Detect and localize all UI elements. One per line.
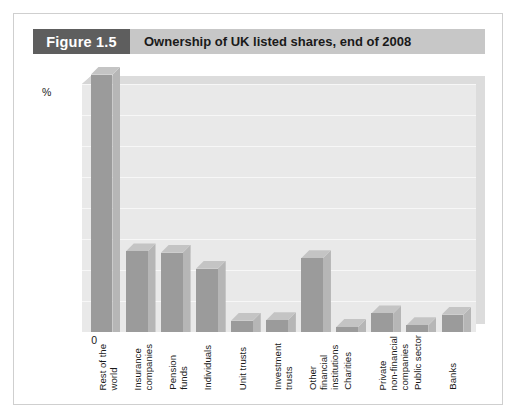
x-axis-label: Banks [447, 363, 458, 390]
gridline [82, 301, 476, 302]
gridline [82, 239, 476, 240]
plot-area [82, 76, 485, 332]
x-axis-label: Private non-financial companies [377, 336, 410, 390]
x-axis-label: Public sector [412, 335, 423, 390]
x-axis-label: Unit trusts [237, 347, 248, 390]
gridline [82, 177, 476, 178]
x-axis-label: Pension funds [167, 355, 189, 390]
bar-top-face [91, 67, 121, 75]
x-axis-label: Insurance companies [132, 344, 154, 390]
gridline [82, 146, 476, 147]
gridline [82, 84, 476, 85]
x-axis-labels: Rest of the worldInsurance companiesPens… [82, 334, 485, 390]
figure-number-label: Figure 1.5 [33, 29, 130, 54]
gridline [82, 208, 476, 209]
y-axis-unit-label: % [42, 86, 51, 98]
figure-title-text: Ownership of UK listed shares, end of 20… [130, 29, 411, 54]
x-axis-label: Individuals [202, 345, 213, 390]
figure-card: Figure 1.5 Ownership of UK listed shares… [13, 13, 503, 405]
gridline [82, 115, 476, 116]
bar-chart: % 0510152025303540 Rest of the worldInsu… [33, 62, 485, 392]
plot-front-face [82, 84, 476, 332]
x-axis-label: Other financial institutions [307, 334, 340, 390]
x-axis-label: Investment trusts [272, 334, 294, 390]
x-axis-label: Charities [342, 352, 353, 390]
x-axis-label: Rest of the world [97, 344, 119, 390]
figure-title-band: Figure 1.5 Ownership of UK listed shares… [33, 29, 485, 54]
gridline [82, 270, 476, 271]
